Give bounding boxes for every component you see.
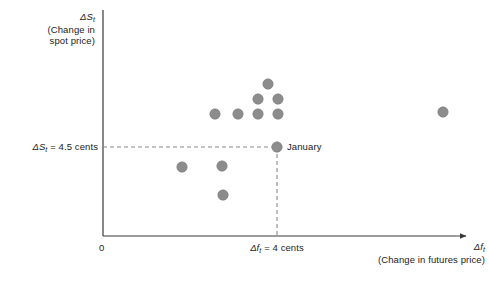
data-point — [210, 109, 220, 119]
data-point — [217, 161, 227, 171]
x-axis-title: Δft (Change in futures price) — [349, 241, 485, 265]
scatter-plot-figure: ΔSt (Change in spot price) ΔSt = 4.5 cen… — [0, 0, 489, 286]
data-point-outlier — [438, 107, 448, 117]
x-axis-title-line1: (Change in futures price) — [349, 254, 485, 266]
origin-label: 0 — [99, 242, 119, 254]
x-axis-symbol: Δft — [349, 241, 485, 254]
y-axis-title-line1: (Change in — [0, 24, 95, 36]
data-point — [253, 109, 263, 119]
y-axis-symbol: ΔSt — [0, 11, 95, 24]
x-axis-tick-label: Δft = 4 cents — [217, 242, 337, 255]
data-point — [253, 94, 263, 104]
data-point — [273, 109, 283, 119]
data-point — [218, 190, 228, 200]
y-tick-label-rest: = 4.5 cents — [47, 141, 98, 152]
data-point-january — [272, 142, 282, 152]
data-point — [263, 79, 273, 89]
data-point — [273, 94, 283, 104]
y-axis-tick-label: ΔSt = 4.5 cents — [0, 141, 98, 154]
y-axis-title: ΔSt (Change in spot price) — [0, 11, 95, 47]
x-tick-label-rest: = 4 cents — [261, 242, 303, 253]
january-annotation-label: January — [287, 141, 357, 153]
y-axis-title-line2: spot price) — [0, 35, 95, 47]
data-points-group — [177, 79, 448, 200]
data-point — [233, 109, 243, 119]
data-point — [177, 162, 187, 172]
